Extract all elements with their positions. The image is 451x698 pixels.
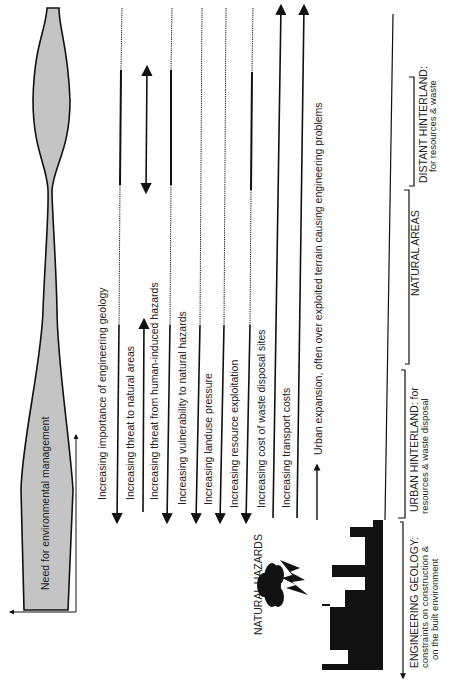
trend-label-threat-natural-areas: Increasing threat to natural areas: [124, 346, 136, 500]
trend-label-transport: Increasing transport costs: [280, 388, 292, 508]
trend-label-waste-disposal: Increasing cost of waste disposal sites: [255, 329, 267, 508]
trend-label-resource: Increasing resource exploitation: [228, 360, 240, 508]
trend-label-engineering-geology: Increasing importance of engineering geo…: [96, 287, 108, 500]
environmental-management-band: Need for environmental management: [10, 8, 76, 612]
zone-distant-hinterland-line2: for resources & waste: [427, 80, 438, 172]
zone-urban-hinterland-line2: resources & waste disposal: [419, 398, 430, 514]
trend-label-landuse: Increasing landuse pressure: [202, 373, 214, 505]
trend-label-urban-expansion: Urban expansion, often over exploited te…: [312, 102, 324, 455]
urban-geology-diagram: Need for environmental management: [0, 0, 451, 698]
zone-labels: ENGINEERING GEOLOGY: constraints on cons…: [408, 66, 440, 668]
zone-natural-areas-title: NATURAL AREAS: [409, 210, 421, 296]
trend-label-human-induced-hazards: Increasing threat from human-induced haz…: [148, 282, 160, 500]
management-label: Need for environmental management: [39, 417, 51, 590]
zone-engineering-geology-line3: on the built environment: [429, 558, 440, 660]
city-skyline-icon: [322, 520, 383, 670]
trend-labels: Increasing importance of engineering geo…: [96, 102, 324, 508]
storm-cloud-lightning-icon: [257, 560, 308, 607]
trend-label-vulnerability: Increasing vulnerability to natural haza…: [176, 311, 188, 505]
natural-hazards-group: NATURAL HAZARDS: [252, 534, 308, 635]
